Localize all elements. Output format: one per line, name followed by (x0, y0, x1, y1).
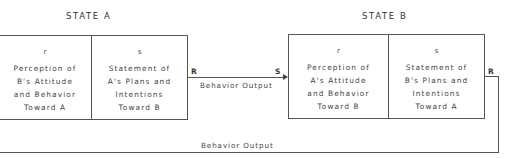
state-a-title: STATE A (66, 11, 111, 21)
feedback-vertical-line (498, 76, 499, 153)
feedback-bottom-line (0, 152, 499, 153)
state-a-output-port-label: R (191, 67, 197, 76)
state-b-statement-line-1: Statement of (406, 61, 468, 74)
a-to-b-behavior-output-label: Behavior Output (200, 81, 273, 90)
state-a-box: r Perception of B's Attitude and Behavio… (0, 35, 188, 120)
state-a-perception-cell: r Perception of B's Attitude and Behavio… (0, 36, 91, 119)
a-to-b-connector-line (188, 77, 283, 78)
state-a-statement-cell: s Statement of A's Plans and Intentions … (92, 36, 187, 119)
state-b-title: STATE B (362, 11, 407, 21)
state-a-statement-line-2: A's Plans and (108, 75, 171, 88)
state-b-perception-cell: r Perception of A's Attitude and Behavio… (289, 35, 388, 118)
state-b-r-label: r (337, 47, 340, 55)
state-a-statement-line-1: Statement of (109, 62, 171, 75)
state-a-s-label: s (138, 48, 142, 56)
state-b-box: r Perception of A's Attitude and Behavio… (288, 34, 485, 119)
state-b-perception-line-2: A's Attitude (310, 74, 366, 87)
state-b-statement-line-2: B's Plans and (405, 74, 468, 87)
feedback-stub-line (485, 76, 498, 77)
state-b-perception-line-1: Perception of (307, 61, 370, 74)
state-b-statement-cell: s Statement of B's Plans and Intentions … (389, 35, 484, 118)
state-b-statement-line-3: Intentions (413, 87, 461, 100)
state-b-output-port-label: R (488, 67, 494, 76)
state-a-r-label: r (44, 48, 47, 56)
state-b-s-label: s (435, 47, 439, 55)
state-b-perception-line-3: and Behavior (307, 87, 369, 100)
b-to-a-behavior-output-label: Behavior Output (201, 141, 274, 150)
state-a-perception-line-2: B's Attitude (17, 75, 73, 88)
state-a-statement-line-3: Intentions (116, 88, 164, 101)
state-a-statement-line-4: Toward B (118, 101, 160, 114)
state-a-perception-line-3: and Behavior (14, 88, 76, 101)
state-b-input-port-label: S (275, 67, 280, 76)
state-b-perception-line-4: Toward B (317, 100, 359, 113)
state-b-statement-line-4: Toward A (415, 100, 457, 113)
state-a-perception-line-4: Toward A (24, 101, 66, 114)
state-a-perception-line-1: Perception of (14, 62, 77, 75)
